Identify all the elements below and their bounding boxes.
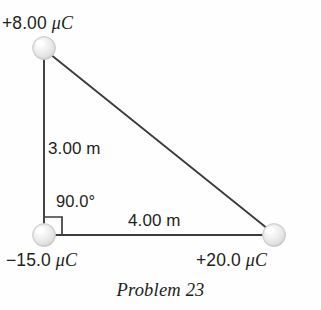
charge-label-top-value: +8.00 — [2, 13, 52, 33]
dimension-label-vertical: 3.00 m — [48, 140, 101, 157]
charge-label-bottom-left: −15.0 μC — [6, 251, 77, 270]
charge-label-bottom-right-value: +20.0 — [196, 250, 246, 270]
angle-label: 90.0° — [56, 193, 95, 210]
sphere-icon-bottom-left — [33, 224, 56, 247]
charge-label-top-unit: μC — [52, 13, 73, 33]
physics-figure: +8.00 μC −15.0 μC +20.0 μC 3.00 m 4.00 m… — [0, 0, 321, 310]
sphere-icon-top — [33, 37, 56, 60]
charge-label-top: +8.00 μC — [2, 14, 73, 33]
charge-label-bottom-right-unit: μC — [246, 250, 267, 270]
charge-label-bottom-left-value: −15.0 — [6, 250, 56, 270]
sphere-icon-bottom-right — [263, 224, 286, 247]
figure-caption: Problem 23 — [0, 280, 321, 301]
dimension-label-horizontal: 4.00 m — [128, 212, 181, 229]
charge-label-bottom-left-unit: μC — [56, 250, 77, 270]
charge-label-bottom-right: +20.0 μC — [196, 251, 267, 270]
